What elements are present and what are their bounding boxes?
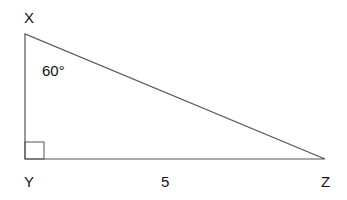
angle-label-x: 60° [42,63,65,78]
vertex-label-y: Y [24,174,34,189]
vertex-label-z: Z [321,174,330,189]
triangle-xyz [25,34,325,159]
right-angle-marker [25,142,44,159]
side-label-yz: 5 [161,174,169,189]
vertex-label-x: X [24,10,34,25]
triangle-diagram [0,0,347,200]
